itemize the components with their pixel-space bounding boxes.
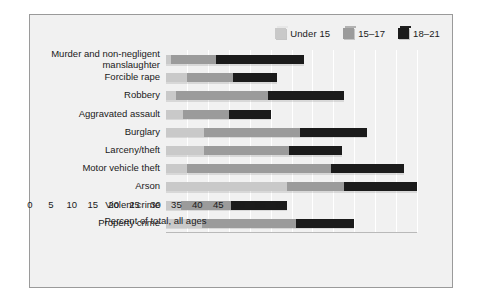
category-label: Aggravated assault	[0, 108, 160, 119]
x-tick-label: 60	[276, 199, 287, 210]
bar-row: Aggravated assault	[166, 105, 417, 123]
gridline-60	[417, 50, 418, 232]
bar-segment-18-21	[216, 55, 304, 64]
bar-segment-18-21	[289, 146, 341, 155]
bar[interactable]	[166, 128, 367, 137]
x-axis-title: Percent of total, all ages	[30, 215, 281, 226]
bar[interactable]	[166, 55, 304, 64]
x-tick-label: 35	[171, 199, 182, 210]
bar-segment-15-17	[204, 146, 290, 155]
bar-segment-15-17	[187, 73, 233, 82]
bar[interactable]	[166, 73, 277, 82]
x-tick-label: 25	[129, 199, 140, 210]
bar-segment-18-21	[233, 73, 277, 82]
bar-row: Larceny/theft	[166, 141, 417, 159]
bar-segment-15-17	[287, 182, 343, 191]
category-label: Burglary	[0, 127, 160, 138]
legend-label: 15–17	[358, 28, 385, 39]
bar-segment-under-15	[166, 182, 287, 191]
bar-segment-15-17	[204, 128, 300, 137]
x-tick-label: 5	[48, 199, 53, 210]
x-tick-label: 40	[192, 199, 203, 210]
bar-row: Robbery	[166, 86, 417, 104]
bar-segment-18-21	[300, 128, 367, 137]
bar-segment-18-21	[344, 182, 417, 191]
bar-segment-under-15	[166, 73, 187, 82]
category-label: Larceny/theft	[0, 145, 160, 156]
bar-segment-18-21	[296, 219, 355, 228]
bar[interactable]	[166, 110, 271, 119]
x-tick-label: 10	[67, 199, 78, 210]
category-label: Murder and non-negligent manslaughter	[0, 49, 160, 70]
bar-segment-under-15	[166, 164, 187, 173]
legend-swatch-icon	[343, 28, 354, 39]
chart-figure: Under 1515–1718–21 Murder and non-neglig…	[29, 14, 453, 288]
chart-legend: Under 1515–1718–21	[275, 28, 440, 39]
x-tick-label: 55	[255, 199, 266, 210]
bar-segment-18-21	[331, 164, 404, 173]
bar-segment-15-17	[183, 110, 229, 119]
x-tick-label: 30	[150, 199, 161, 210]
x-axis-line	[166, 232, 417, 233]
bar-segment-15-17	[171, 55, 216, 64]
bar[interactable]	[166, 164, 404, 173]
x-tick-label: 50	[234, 199, 245, 210]
legend-label: 18–21	[413, 28, 440, 39]
legend-swatch-icon	[275, 28, 286, 39]
bar-row: Forcible rape	[166, 68, 417, 86]
legend-label: Under 15	[290, 28, 330, 39]
bar-segment-under-15	[166, 146, 204, 155]
bar-segment-15-17	[187, 164, 331, 173]
bar-segment-under-15	[166, 128, 204, 137]
x-tick-label: 45	[213, 199, 224, 210]
legend-item-0: Under 15	[275, 28, 330, 39]
x-tick-label: 15	[87, 199, 98, 210]
bar-row: Burglary	[166, 123, 417, 141]
legend-item-2: 18–21	[398, 28, 440, 39]
category-label: Robbery	[0, 90, 160, 101]
bar[interactable]	[166, 146, 342, 155]
x-axis-ticks: 051015202530354045505560	[30, 199, 281, 213]
bar[interactable]	[166, 182, 417, 191]
bar-segment-18-21	[229, 110, 271, 119]
category-label: Forcible rape	[0, 72, 160, 83]
legend-swatch-icon	[398, 28, 409, 39]
bar-segment-15-17	[176, 91, 268, 100]
bar[interactable]	[166, 91, 344, 100]
x-tick-label: 0	[27, 199, 32, 210]
bar-segment-18-21	[268, 91, 343, 100]
legend-item-1: 15–17	[343, 28, 385, 39]
bar-row: Motor vehicle theft	[166, 159, 417, 177]
bar-row: Arson	[166, 177, 417, 195]
category-label: Motor vehicle theft	[0, 163, 160, 174]
category-label: Arson	[0, 181, 160, 192]
x-tick-label: 20	[108, 199, 119, 210]
bar-segment-under-15	[166, 91, 176, 100]
bar-row: Murder and non-negligent manslaughter	[166, 50, 417, 68]
bar-segment-under-15	[166, 110, 183, 119]
